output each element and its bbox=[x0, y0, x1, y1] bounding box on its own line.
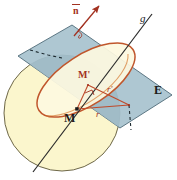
label-normal-vector-n: n bbox=[73, 6, 79, 16]
label-line-g: g bbox=[140, 13, 146, 24]
geometry-figure: M M' r r' E g n bbox=[0, 0, 177, 180]
label-circle-center-M-prime: M' bbox=[78, 70, 90, 80]
label-plane-E: E bbox=[154, 84, 162, 96]
point-rim bbox=[128, 104, 130, 106]
label-radius-r-prime: r' bbox=[107, 85, 112, 94]
figure-canvas bbox=[0, 0, 177, 180]
label-sphere-center-M: M bbox=[64, 112, 75, 124]
point-M bbox=[75, 107, 78, 110]
normal-vector-letter: n bbox=[73, 6, 79, 16]
normal-foot-tick bbox=[81, 24, 84, 28]
label-radius-r: r bbox=[96, 110, 100, 119]
point-M-prime bbox=[87, 84, 89, 86]
